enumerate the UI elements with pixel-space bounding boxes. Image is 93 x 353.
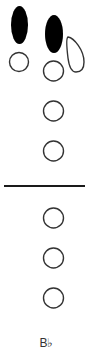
- hole-1-icon: [44, 61, 64, 81]
- note-label: B♭: [0, 336, 93, 350]
- fingering-diagram: [0, 0, 93, 353]
- hole-4-icon: [44, 208, 64, 228]
- hole-5-icon: [44, 248, 64, 268]
- hole-2-icon: [44, 101, 64, 121]
- hole-3-icon: [44, 141, 64, 161]
- hole-6-icon: [44, 288, 64, 308]
- left-thumb-key-icon: [11, 6, 28, 44]
- octave-key-icon: [67, 37, 84, 72]
- thumb-hole-icon: [10, 53, 29, 72]
- right-thumb-key-icon: [45, 15, 63, 53]
